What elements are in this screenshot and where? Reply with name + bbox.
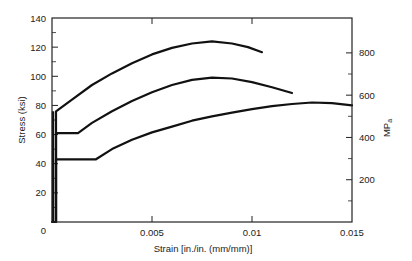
y-tick-label: 80 — [35, 100, 46, 111]
x-tick-label: 0.01 — [243, 227, 262, 238]
y2-axis-label-sub: a — [386, 119, 393, 123]
y2-tick-label: 200 — [359, 174, 375, 185]
y2-axis-label: MPa — [381, 119, 393, 137]
y-tick-label: 100 — [30, 71, 46, 82]
y2-tick-label: 400 — [359, 132, 375, 143]
x-axis-ticks: 0.0050.010.015 — [140, 18, 364, 238]
x-axis-label: Strain [in./in. (mm/mm)] — [154, 243, 253, 254]
y-axis-label: Stress (ksi) — [16, 96, 27, 144]
y-tick-label: 40 — [35, 158, 46, 169]
stress-strain-chart: 020406080100120140 200400600800 0.0050.0… — [0, 0, 412, 261]
x-tick-label: 0.015 — [340, 227, 364, 238]
y-tick-label: 0 — [41, 225, 46, 236]
x-tick-label: 0.005 — [140, 227, 164, 238]
y2-axis-ticks: 200400600800 — [346, 47, 375, 200]
y-tick-label: 140 — [30, 13, 46, 24]
curve-2 — [56, 78, 292, 222]
y-tick-label: 120 — [30, 42, 46, 53]
y2-tick-label: 800 — [359, 47, 375, 58]
curves — [52, 41, 352, 222]
y-tick-label: 20 — [35, 187, 46, 198]
y2-axis-label-main: MP — [381, 123, 392, 137]
y-tick-label: 60 — [35, 129, 46, 140]
y2-tick-label: 600 — [359, 90, 375, 101]
curve-3 — [56, 103, 352, 223]
